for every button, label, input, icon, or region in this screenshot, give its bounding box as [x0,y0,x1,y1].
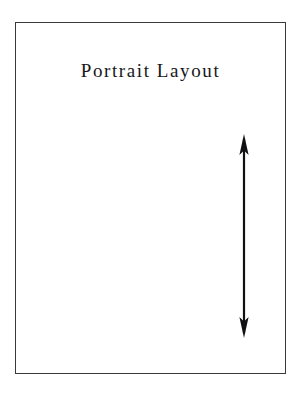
page-title: Portrait Layout [15,60,286,82]
portrait-layout-figure: Portrait Layout [0,0,302,396]
double-headed-vertical-arrow-icon [228,130,260,342]
arrow-svg [228,130,260,342]
